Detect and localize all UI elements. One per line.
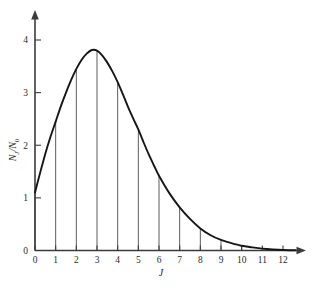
y-tick-label-2: 2 (23, 141, 28, 151)
y-tick-label-4: 4 (23, 35, 28, 45)
x-tick-label-5: 5 (136, 255, 141, 265)
x-tick-label-3: 3 (95, 255, 100, 265)
x-tick-label-4: 4 (115, 255, 120, 265)
x-axis-title: J (159, 267, 164, 278)
y-tick-labels-group: 01234 (23, 35, 28, 256)
x-tick-label-1: 1 (53, 255, 58, 265)
axes-group (31, 10, 306, 254)
x-tick-label-11: 11 (258, 255, 267, 265)
distribution-curve (35, 50, 295, 251)
y-tick-label-0: 0 (23, 246, 28, 256)
svg-text:NJ/N0: NJ/N0 (7, 138, 21, 162)
x-tick-label-8: 8 (198, 255, 203, 265)
chart-canvas: 0123456789101112 01234 J NJ/N0 (0, 0, 318, 291)
x-tick-label-12: 12 (278, 255, 288, 265)
chart-figure: 0123456789101112 01234 J NJ/N0 (0, 0, 318, 291)
y-axis-title-sub2: 0 (13, 138, 21, 142)
stem-lines-group (35, 51, 242, 251)
x-tick-label-0: 0 (33, 255, 38, 265)
y-axis-arrow-icon (31, 10, 39, 20)
x-axis-arrow-icon (297, 247, 307, 255)
y-axis-title: NJ/N0 (7, 138, 21, 162)
x-tick-label-7: 7 (177, 255, 182, 265)
y-tick-label-3: 3 (23, 88, 28, 98)
x-tick-label-6: 6 (157, 255, 162, 265)
x-tick-label-10: 10 (237, 255, 247, 265)
y-tick-label-1: 1 (23, 193, 28, 203)
x-tick-label-2: 2 (74, 255, 79, 265)
x-tick-labels-group: 0123456789101112 (33, 255, 288, 265)
x-tick-label-9: 9 (219, 255, 224, 265)
